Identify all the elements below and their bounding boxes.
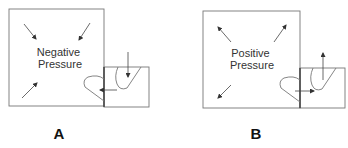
room-text-line1-a: Negative	[37, 46, 80, 58]
panel-a: Negative Pressure A	[9, 9, 149, 142]
door-swing-icon	[280, 77, 300, 102]
arrow-inward-icon	[22, 83, 37, 98]
panel-b: Positive Pressure B	[203, 11, 345, 142]
pressure-diagram: Negative Pressure A Positive Pressure B	[0, 0, 348, 148]
arrow-outward-icon	[218, 27, 231, 42]
panel-label-b: B	[251, 125, 262, 142]
arrow-inward-icon	[79, 23, 90, 40]
anteroom-a	[104, 67, 149, 107]
panel-label-a: A	[54, 125, 65, 142]
arrow-outward-icon	[274, 25, 286, 42]
room-text-line2-a: Pressure	[38, 58, 82, 70]
room-text-line2-b: Pressure	[230, 59, 274, 71]
arrow-inward-icon	[24, 24, 36, 39]
room-text-line1-b: Positive	[231, 47, 270, 59]
svg-text:Positive Pressure: Positive Pressure	[230, 47, 274, 71]
svg-text:Negative Pressure: Negative Pressure	[37, 46, 83, 70]
arrow-outward-icon	[218, 85, 231, 98]
door-swing-icon	[84, 76, 104, 101]
